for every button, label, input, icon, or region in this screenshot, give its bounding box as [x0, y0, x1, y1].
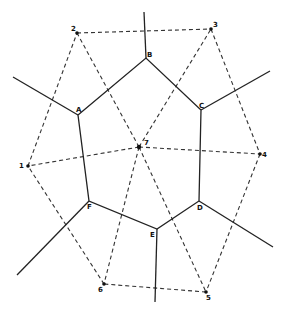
label-vertex-C: C: [199, 102, 204, 110]
edge-2-3: [77, 29, 211, 33]
label-vertex-B: B: [147, 51, 152, 59]
ray-F: [17, 201, 89, 275]
label-site-2: 2: [71, 25, 76, 33]
voronoi-diagram: 1 2 3 4 5 6 7 A B C D E F: [0, 0, 288, 313]
label-site-3: 3: [213, 21, 218, 29]
site-7-dot: [137, 145, 141, 149]
label-vertex-D: D: [197, 204, 203, 212]
voronoi-edges: [13, 12, 273, 302]
edge-7-5: [139, 147, 206, 292]
edge-3-4: [211, 29, 260, 154]
edge-7-6: [104, 147, 139, 284]
label-site-4: 4: [262, 151, 267, 159]
label-site-7: 7: [144, 139, 149, 147]
label-site-6: 6: [98, 286, 103, 294]
label-site-5: 5: [206, 294, 211, 302]
ray-A: [13, 77, 78, 115]
label-vertex-E: E: [150, 231, 155, 239]
label-vertex-F: F: [87, 203, 92, 211]
edge-4-5: [206, 154, 260, 292]
ray-C: [201, 71, 270, 110]
delaunay-edges: [28, 29, 260, 292]
label-vertex-A: A: [76, 106, 82, 114]
site-1-dot: [26, 164, 30, 168]
label-site-1: 1: [19, 162, 24, 170]
ray-D: [199, 201, 273, 247]
ray-B: [144, 12, 146, 58]
voronoi-cell-7: [78, 58, 201, 229]
ray-E: [155, 229, 157, 302]
